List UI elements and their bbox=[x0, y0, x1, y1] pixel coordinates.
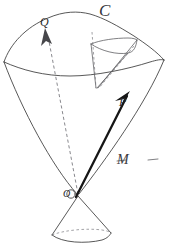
outer-cone-rim-lower-arc bbox=[4, 60, 164, 76]
cone-diagram-figure: Q C P O M bbox=[0, 0, 170, 246]
label-vector-p: P bbox=[119, 96, 126, 108]
inner-cone-rim-lower-arc bbox=[91, 40, 137, 54]
outer-cone-left-slant bbox=[4, 62, 77, 194]
label-manifold-m: M bbox=[117, 153, 129, 167]
inner-cone-rim-upper-arc bbox=[91, 38, 137, 44]
vector-p-shaft bbox=[76, 96, 127, 197]
lower-cone-base-back-arc bbox=[52, 229, 111, 235]
inner-cone-dashed-slant bbox=[99, 46, 134, 88]
lower-cone-base-front-arc bbox=[52, 233, 111, 242]
m-label-right-tick bbox=[148, 159, 158, 160]
lower-cone-left-slant bbox=[52, 196, 78, 235]
outer-cone-right-slant bbox=[79, 60, 164, 194]
outer-cone-rim-upper-arc bbox=[4, 12, 164, 62]
diagram-canvas bbox=[0, 0, 170, 246]
label-curve-c: C bbox=[99, 2, 110, 19]
label-vector-q: Q bbox=[40, 16, 49, 28]
vector-q-arrowhead bbox=[41, 28, 52, 46]
label-origin-o: O bbox=[63, 189, 70, 199]
inner-cone-left-slant bbox=[91, 44, 96, 88]
vector-q-dashed-shaft bbox=[48, 36, 78, 194]
lower-cone-right-slant bbox=[78, 196, 111, 233]
